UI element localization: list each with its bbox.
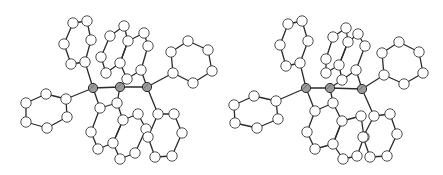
carbon-atom bbox=[41, 89, 51, 99]
carbon-atom bbox=[365, 152, 375, 162]
metal-atom bbox=[115, 82, 124, 91]
carbon-atom bbox=[369, 111, 379, 121]
carbon-atom bbox=[418, 68, 428, 78]
carbon-atom bbox=[86, 127, 96, 137]
carbon-atom bbox=[338, 154, 348, 164]
carbon-atom bbox=[283, 19, 293, 29]
carbon-atom bbox=[271, 96, 281, 106]
carbon-atom bbox=[122, 74, 132, 84]
carbon-atom bbox=[385, 109, 395, 119]
carbon-atom bbox=[203, 45, 213, 55]
carbon-atom bbox=[150, 152, 160, 162]
carbon-atom bbox=[112, 98, 122, 108]
carbon-atom bbox=[119, 21, 129, 31]
carbon-atom bbox=[252, 123, 262, 133]
carbon-atom bbox=[328, 98, 338, 108]
carbon-atom bbox=[139, 28, 149, 38]
carbon-atom bbox=[93, 144, 103, 154]
carbon-atom bbox=[169, 109, 179, 119]
carbon-atom bbox=[302, 127, 312, 137]
carbon-atom bbox=[249, 91, 259, 101]
carbon-atom bbox=[59, 39, 69, 49]
carbon-atom bbox=[21, 98, 31, 108]
carbon-atom bbox=[343, 37, 353, 47]
carbon-atom bbox=[101, 68, 111, 78]
carbon-atom bbox=[86, 35, 96, 45]
stereo-diagram bbox=[0, 0, 443, 175]
carbon-atom bbox=[328, 139, 338, 149]
carbon-atom bbox=[351, 65, 361, 75]
carbon-atom bbox=[377, 48, 387, 58]
carbon-atom bbox=[61, 94, 71, 104]
carbon-atom bbox=[356, 111, 366, 121]
carbon-atom bbox=[21, 117, 31, 127]
carbon-atom bbox=[143, 132, 153, 142]
carbon-atom bbox=[143, 41, 153, 51]
carbon-atom bbox=[62, 112, 72, 122]
carbon-atom bbox=[118, 115, 128, 125]
background bbox=[0, 0, 443, 175]
carbon-atom bbox=[310, 144, 320, 154]
carbon-atom bbox=[123, 36, 133, 46]
metal-atom bbox=[88, 83, 97, 92]
carbon-atom bbox=[379, 70, 389, 80]
carbon-atom bbox=[295, 58, 305, 68]
carbon-atom bbox=[321, 68, 331, 78]
carbon-atom bbox=[353, 29, 363, 39]
carbon-atom bbox=[310, 106, 320, 116]
carbon-atom bbox=[188, 78, 198, 88]
carbon-atom bbox=[96, 52, 106, 62]
carbon-atom bbox=[337, 116, 347, 126]
carbon-atom bbox=[229, 100, 239, 110]
carbon-atom bbox=[108, 138, 118, 148]
carbon-atom bbox=[80, 57, 90, 67]
metal-atom bbox=[325, 83, 334, 92]
carbon-atom bbox=[297, 16, 307, 26]
carbon-atom bbox=[352, 151, 362, 161]
carbon-atom bbox=[382, 151, 392, 161]
carbon-atom bbox=[273, 114, 283, 124]
carbon-atom bbox=[334, 60, 344, 70]
carbon-atom bbox=[281, 61, 291, 71]
carbon-atom bbox=[275, 40, 285, 50]
carbon-atom bbox=[341, 23, 351, 33]
carbon-atom bbox=[130, 148, 140, 158]
carbon-atom bbox=[95, 103, 105, 113]
carbon-atom bbox=[360, 41, 370, 51]
carbon-atom bbox=[167, 151, 177, 161]
carbon-atom bbox=[358, 132, 368, 142]
carbon-atom bbox=[414, 47, 424, 57]
carbon-atom bbox=[230, 118, 240, 128]
carbon-atom bbox=[115, 58, 125, 68]
carbon-atom bbox=[321, 54, 331, 64]
carbon-atom bbox=[82, 16, 92, 26]
carbon-atom bbox=[392, 129, 402, 139]
carbon-atom bbox=[337, 75, 347, 85]
carbon-atom bbox=[394, 37, 404, 47]
carbon-atom bbox=[133, 109, 143, 119]
carbon-atom bbox=[177, 128, 187, 138]
carbon-atom bbox=[328, 32, 338, 42]
carbon-atom bbox=[168, 68, 178, 78]
carbon-atom bbox=[399, 79, 409, 89]
carbon-atom bbox=[42, 123, 52, 133]
metal-atom bbox=[357, 84, 366, 93]
metal-atom bbox=[142, 82, 151, 91]
carbon-atom bbox=[105, 31, 115, 41]
carbon-atom bbox=[115, 154, 125, 164]
carbon-atom bbox=[136, 65, 146, 75]
carbon-atom bbox=[303, 36, 313, 46]
carbon-atom bbox=[183, 36, 193, 46]
carbon-atom bbox=[153, 109, 163, 119]
carbon-atom bbox=[66, 59, 76, 69]
metal-atom bbox=[301, 83, 310, 92]
carbon-atom bbox=[68, 18, 78, 28]
carbon-atom bbox=[207, 66, 217, 76]
carbon-atom bbox=[166, 47, 176, 57]
